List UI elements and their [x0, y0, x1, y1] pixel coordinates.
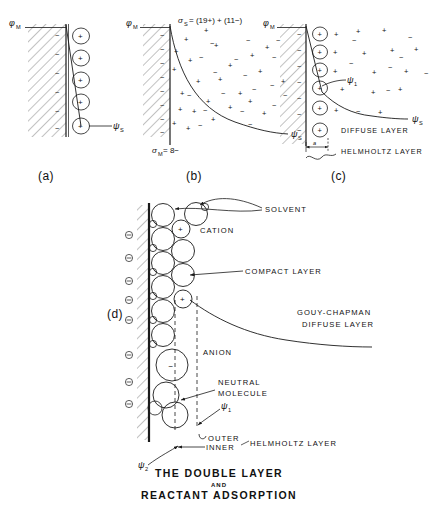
panel-c-gap-label: a [313, 140, 316, 146]
panel-b-metal-charge: − [160, 31, 165, 40]
svg-text:−: − [349, 59, 354, 68]
svg-text:+: + [184, 35, 189, 44]
svg-text:−: − [399, 53, 404, 62]
svg-text:−: − [246, 36, 251, 45]
svg-text:−: − [199, 53, 204, 62]
panel-b-metal-charge: − [160, 73, 165, 82]
solvent-molecule [149, 324, 174, 348]
svg-text:−: − [203, 106, 208, 115]
svg-text:+: + [238, 89, 243, 98]
panel-d: (d) [107, 199, 374, 472]
svg-text:+: + [204, 26, 209, 35]
svg-text:+: + [196, 77, 201, 86]
panel-a-metal-charge: − [55, 69, 60, 78]
panel-d-psi1-subscript: 1 [228, 407, 231, 413]
svg-text:+: + [258, 67, 263, 76]
panel-d-cation: + [172, 220, 190, 238]
panel-a-metal-charge: − [55, 88, 60, 97]
panel-d-compact-layer-leader [190, 271, 243, 275]
svg-text:+: + [192, 107, 197, 116]
panel-b-metal-charge: − [160, 115, 165, 124]
panel-d-anion-label: ANION [203, 348, 232, 357]
panel-a-phi-symbol: φ [9, 18, 15, 28]
panel-c-ion-cloud: + + + + + + + + + + + + + + + − − − − − … [333, 26, 429, 117]
svg-text:−: − [272, 101, 277, 110]
panel-d-solvent-label: SOLVENT [265, 205, 307, 214]
svg-text:+: + [78, 98, 83, 107]
svg-text:−: − [272, 53, 277, 62]
panel-b-metal-charge: − [160, 101, 165, 110]
panel-b-sigma-s-value: = (19+) + (11−) [189, 16, 243, 25]
svg-text:+: + [334, 106, 339, 115]
panel-b-metal-hatching [143, 24, 170, 137]
panel-d-neutral-molecule [148, 382, 188, 428]
panel-c-metal-charge: − [297, 94, 302, 103]
circled-minus-icon [125, 254, 132, 261]
panel-d-neutral-label-1: NEUTRAL [218, 378, 260, 387]
svg-text:+: + [404, 67, 409, 76]
panel-b-sigma-s-subscript: S [184, 21, 188, 27]
svg-text:−: − [424, 69, 429, 78]
panel-a-psi-subscript: S [120, 127, 124, 133]
panel-d-gouy-chapman-label-1: GOUY-CHAPMAN [297, 308, 371, 317]
svg-text:+: + [186, 124, 191, 133]
svg-text:−: − [252, 85, 257, 94]
solvent-molecule [149, 204, 174, 228]
svg-text:+: + [318, 126, 323, 135]
svg-text:−: − [388, 63, 393, 72]
panel-d-psi2-leader [148, 446, 178, 465]
panel-d-inner-solvent-column [149, 204, 174, 348]
panel-d-metal-charges [125, 231, 132, 407]
svg-text:−: − [243, 71, 248, 80]
panel-d-anion: − [156, 349, 188, 381]
svg-text:−: − [234, 55, 239, 64]
panel-c: φ M − − − − − − − + + + + + + + [263, 18, 429, 183]
circled-minus-icon [125, 277, 132, 284]
panel-b-phi-symbol: φ [126, 18, 132, 28]
svg-text:+: + [180, 89, 185, 98]
caption-line-2: AND [211, 482, 227, 488]
panel-c-psi1-subscript: 1 [354, 81, 357, 87]
svg-text:+: + [372, 68, 377, 77]
svg-text:+: + [248, 97, 253, 106]
svg-text:−: − [221, 89, 226, 98]
panel-b-ion-cloud: + + + + + + + + + + + + + + + + + + + + … [172, 26, 286, 133]
svg-text:+: + [172, 65, 177, 74]
panel-c-cation: + [313, 101, 328, 115]
panel-b-metal-charge: − [160, 87, 165, 96]
svg-text:+: + [188, 56, 193, 65]
panel-c-metal-charge: − [297, 30, 302, 39]
caption-line-3: REACTANT ADSORPTION [141, 489, 297, 501]
panel-d-helmholtz-layer-label: HELMHOLTZ LAYER [250, 439, 337, 448]
panel-b-metal-charge: − [160, 128, 165, 137]
panel-c-metal-charge: − [297, 78, 302, 87]
solvent-molecule [149, 300, 174, 324]
panel-a-phi-subscript: M [16, 24, 21, 30]
svg-text:+: + [265, 43, 270, 52]
panel-c-phi-subscript: M [270, 24, 275, 30]
panel-a-cation: + [73, 50, 90, 66]
svg-text:+: + [318, 66, 323, 75]
panel-d-psi1-leader [198, 409, 220, 425]
panel-a-metal-hatching [28, 24, 66, 137]
circled-minus-icon [125, 316, 132, 323]
panel-c-psis-subscript: S [419, 120, 423, 126]
panel-c-psis-symbol: ψ [412, 114, 419, 124]
panel-a-metal-charge: − [55, 50, 60, 59]
svg-text:+: + [211, 115, 216, 124]
panel-d-solvent-leader-2 [175, 208, 262, 211]
panel-c-helmholtz-layer-label: HELMHOLTZ LAYER [341, 147, 423, 156]
svg-text:+: + [218, 75, 223, 84]
svg-text:+: + [78, 32, 83, 41]
svg-text:+: + [262, 109, 267, 118]
svg-text:+: + [178, 105, 183, 114]
panel-d-gouy-chapman-label-2: DIFFUSE LAYER [302, 320, 374, 329]
svg-text:−: − [198, 121, 203, 130]
circled-minus-icon [125, 296, 132, 303]
circled-minus-icon [125, 351, 132, 358]
panel-c-metal-hatching [280, 24, 306, 144]
svg-text:+: + [356, 27, 361, 36]
svg-text:+: + [318, 30, 323, 39]
svg-text:+: + [318, 104, 323, 113]
solvent-molecule [172, 240, 195, 263]
